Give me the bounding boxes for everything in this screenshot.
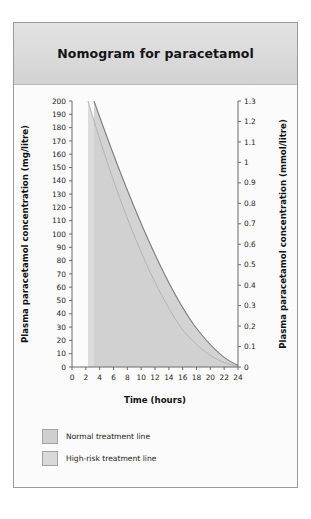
right-tick-label: 0.7	[244, 219, 256, 228]
x-tick-label: 22	[219, 373, 228, 382]
right-tick-label: 0.2	[244, 322, 256, 331]
legend-swatch-normal	[42, 429, 58, 444]
left-axis-ticks: 0102030405060708090100110120130140150160…	[52, 97, 72, 372]
chart-header-band: Nomogram for paracetamol	[14, 23, 297, 85]
x-tick-label: 12	[150, 373, 159, 382]
left-tick-label: 20	[57, 336, 67, 345]
right-tick-label: 0.9	[244, 178, 256, 187]
x-tick-label: 24	[233, 373, 243, 382]
normal-band	[94, 101, 238, 367]
right-tick-label: 1.1	[244, 138, 256, 147]
left-tick-label: 0	[61, 363, 66, 372]
x-axis-title: Time (hours)	[124, 395, 186, 405]
right-tick-label: 0.4	[244, 281, 256, 290]
x-tick-label: 4	[97, 373, 102, 382]
left-tick-label: 70	[57, 270, 67, 279]
legend: Normal treatment line High-risk treatmen…	[42, 429, 272, 473]
legend-item-normal: Normal treatment line	[42, 429, 272, 444]
legend-swatch-high-risk	[42, 451, 58, 466]
left-tick-label: 50	[57, 296, 67, 305]
right-tick-label: 1.2	[244, 117, 256, 126]
x-tick-label: 2	[83, 373, 88, 382]
curve-group	[88, 101, 238, 367]
legend-label-high-risk: High-risk treatment line	[66, 454, 156, 463]
right-tick-label: 0.1	[244, 342, 256, 351]
right-axis-ticks: 00.10.20.30.40.50.60.70.80.911.11.21.3	[238, 97, 256, 372]
legend-item-high-risk: High-risk treatment line	[42, 451, 272, 466]
left-tick-label: 120	[52, 203, 66, 212]
right-tick-label: 0.5	[244, 260, 256, 269]
legend-label-normal: Normal treatment line	[66, 432, 150, 441]
left-tick-label: 130	[52, 190, 66, 199]
page-title: Nomogram for paracetamol	[57, 46, 254, 61]
left-tick-label: 140	[52, 176, 66, 185]
x-tick-label: 20	[206, 373, 216, 382]
left-tick-label: 110	[52, 216, 66, 225]
left-tick-label: 160	[52, 150, 66, 159]
x-axis-ticks: 024681012141618202224	[70, 367, 243, 382]
left-tick-label: 190	[52, 110, 66, 119]
right-tick-label: 1	[244, 158, 249, 167]
x-tick-label: 14	[164, 373, 174, 382]
left-tick-label: 90	[57, 243, 67, 252]
left-tick-label: 200	[52, 97, 66, 106]
x-tick-label: 16	[178, 373, 188, 382]
left-tick-label: 60	[57, 283, 67, 292]
left-tick-label: 40	[57, 309, 67, 318]
x-tick-label: 10	[136, 373, 146, 382]
right-tick-label: 0	[244, 363, 249, 372]
x-tick-label: 18	[192, 373, 202, 382]
right-tick-label: 0.6	[244, 240, 256, 249]
plot-area-container: 0102030405060708090100110120130140150160…	[14, 85, 297, 487]
y-axis-left-title: Plasma paracetamol concentration (mg/lit…	[20, 125, 30, 343]
left-tick-label: 30	[57, 323, 67, 332]
right-tick-label: 0.3	[244, 301, 256, 310]
right-tick-label: 0.8	[244, 199, 256, 208]
left-tick-label: 170	[52, 137, 66, 146]
right-tick-label: 1.3	[244, 97, 256, 106]
x-tick-label: 0	[70, 373, 75, 382]
nomogram-figure: Nomogram for paracetamol 01020304050	[13, 22, 298, 488]
left-tick-label: 100	[52, 230, 66, 239]
left-tick-label: 10	[57, 349, 67, 358]
y-axis-right-title: Plasma paracetamol concentration (mmol/l…	[278, 119, 288, 349]
left-tick-label: 150	[52, 163, 66, 172]
nomogram-plot: 0102030405060708090100110120130140150160…	[14, 85, 297, 425]
x-tick-label: 8	[125, 373, 130, 382]
left-tick-label: 80	[57, 256, 67, 265]
left-tick-label: 180	[52, 123, 66, 132]
x-tick-label: 6	[111, 373, 116, 382]
